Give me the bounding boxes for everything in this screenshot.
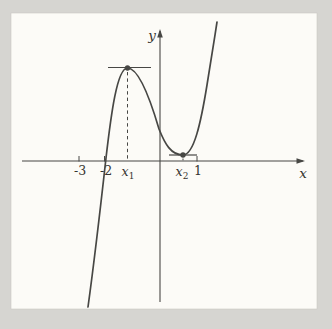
- function-graph: -3-21x1x2xy: [0, 0, 332, 329]
- local-min-point-dot: [180, 152, 185, 157]
- figure-canvas: -3-21x1x2xy: [0, 0, 332, 329]
- x-tick-label: -3: [74, 163, 86, 178]
- local-max-point-dot: [125, 65, 130, 70]
- x-tick-label: 1: [194, 163, 202, 178]
- y-axis-label: y: [147, 27, 156, 43]
- x-axis-label: x: [299, 165, 307, 181]
